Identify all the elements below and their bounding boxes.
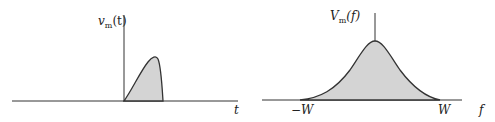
freq-tick-pos-w: W [438,103,452,117]
time-y-label: vm(t) [98,14,127,30]
time-x-label: t [234,103,239,117]
freq-tick-neg-w: −W [291,103,315,117]
signal-diagram: vm(t) t Vm(f) −W W f [0,0,495,122]
time-domain-plot: vm(t) t [12,14,239,117]
freq-y-label: Vm(f) [330,9,360,25]
time-pulse [124,57,163,101]
freq-x-label: f [478,103,486,117]
frequency-domain-plot: Vm(f) −W W f [262,9,486,117]
freq-spectrum [300,41,440,100]
